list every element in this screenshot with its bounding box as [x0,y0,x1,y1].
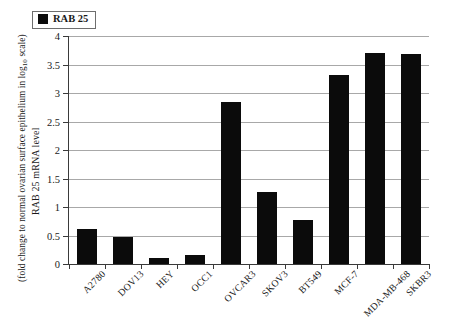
bar-slot [393,36,429,264]
bar-slot [285,36,321,264]
bars-group [69,36,429,264]
bar-slot [249,36,285,264]
x-axis-label-slot: MCF-7 [320,266,356,331]
bar [113,237,134,264]
bar-slot [105,36,141,264]
bar-slot [357,36,393,264]
plot-area: 43.532.521.510.50 [68,36,429,264]
chart-legend: RAB 25 [32,11,96,29]
x-axis-label-slot: OCC1 [176,266,212,331]
x-axis-tick-mark [429,264,430,269]
y-axis-title-line-1: RAB 25 mRNA level [30,127,41,215]
x-axis-label-slot: DOV13 [104,266,140,331]
x-axis-label-slot: OVCAR3 [212,266,248,331]
y-axis-title-line-2-post: scale) [17,34,27,59]
bar [329,75,350,264]
y-axis-tick-label: 1.5 [47,173,60,184]
y-axis-tick-label: 0 [55,259,60,270]
y-axis-tick-label: 1 [55,202,60,213]
x-axis-label-slot: BT549 [284,266,320,331]
bar [401,54,422,264]
x-axis-tick-label: HEY [154,268,176,290]
bar [293,220,314,264]
plot-inner: 43.532.521.510.50 [69,36,429,264]
bar [221,102,242,264]
y-axis-tick-label: 2 [55,145,60,156]
y-axis-title: RAB 25 mRNA level (fold change to normal… [0,0,62,290]
bar [77,229,98,264]
y-axis-tick-label: 3.5 [47,59,60,70]
y-axis-tick-label: 3 [55,88,60,99]
y-axis-tick-label: 0.5 [47,230,60,241]
y-axis-title-line-2-pre: (fold change to normal ovarian surface e… [17,66,27,282]
bar-slot [213,36,249,264]
x-axis-label-slot: A2780 [68,266,104,331]
bar [257,192,278,264]
y-axis-title-line-2: (fold change to normal ovarian surface e… [17,34,29,282]
x-axis-tick-label: OCC1 [189,268,215,294]
bar-slot [69,36,105,264]
x-axis-label-slot: SKBR3 [392,266,428,331]
bar-slot [321,36,357,264]
legend-label: RAB 25 [53,14,88,25]
x-axis-label-slot: MDA-MB-468 [356,266,392,331]
x-axis-tick-label: SKBR3 [404,268,434,298]
y-axis-tick-label: 4 [55,31,60,42]
y-axis-tick-label: 2.5 [47,116,60,127]
bar [185,255,206,264]
x-axis-label-slot: HEY [140,266,176,331]
x-axis-labels: A2780DOV13HEYOCC1OVCAR3SKOV3BT549MCF-7MD… [68,266,428,331]
bar-slot [177,36,213,264]
bar-chart-figure: RAB 25 mRNA level (fold change to normal… [0,0,450,331]
legend-swatch-icon [38,14,48,24]
bar [365,53,386,264]
bar [149,258,170,264]
y-axis-title-log-subscript: 10 [21,59,29,66]
x-axis-label-slot: SKOV3 [248,266,284,331]
bar-slot [141,36,177,264]
